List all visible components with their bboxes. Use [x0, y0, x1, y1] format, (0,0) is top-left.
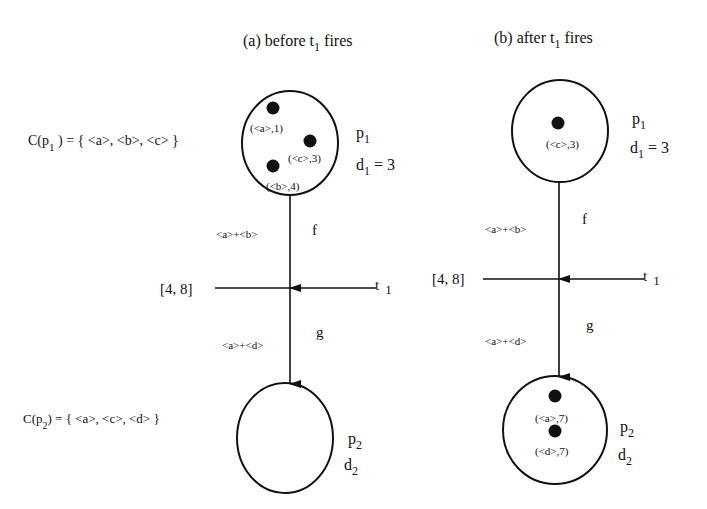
p2-name: p2: [348, 430, 362, 452]
d1-label: d1 = 3: [630, 139, 669, 161]
token-dot: [549, 425, 562, 438]
set-p2-label: C(p2) = { <a>, <c>, <d> }: [23, 411, 160, 431]
d2-label: d2: [618, 446, 632, 468]
arc-f-name: f: [312, 222, 317, 238]
d2-label: d2: [344, 456, 358, 478]
transition-name: t1: [375, 277, 392, 297]
d1-label: d1 = 3: [356, 156, 395, 178]
token-label: (<a>,7): [535, 412, 568, 425]
token-label: (<b>,4): [266, 180, 300, 193]
panel-before: (a) before t1 fires C(p1 ) = { <a>, <b>,…: [23, 32, 395, 493]
place-p2: [237, 383, 333, 493]
firing-interval: [4, 8]: [160, 281, 193, 297]
token-dot: [267, 160, 280, 173]
arc-f-name: f: [582, 211, 587, 227]
token-label: (<a>,1): [250, 122, 283, 135]
panel-a-title: (a) before t1 fires: [243, 32, 353, 54]
p1-name: p1: [356, 124, 370, 146]
token-label: (<c>,3): [546, 138, 579, 151]
arc-g-expression: <a>+<d>: [485, 335, 526, 347]
token-label: (<d>,7): [535, 445, 569, 458]
set-p1-label: C(p1 ) = { <a>, <b>, <c> }: [28, 133, 179, 153]
token-dot: [549, 390, 562, 403]
arc-f-expression: <a>+<b>: [216, 228, 257, 240]
arc-g-expression: <a>+<d>: [222, 339, 263, 351]
token-dot: [304, 135, 317, 148]
place-p1: [512, 80, 608, 182]
p1-name: p1: [632, 110, 646, 132]
transition-name: t1: [643, 268, 660, 288]
token-dot: [267, 102, 280, 115]
arc-g-name: g: [316, 324, 324, 340]
panel-b-title: (b) after t1 fires: [494, 29, 593, 51]
arc-g-name: g: [586, 317, 594, 333]
panel-after: (b) after t1 fires (<c>,3) p1 d1 = 3 <a>…: [432, 29, 669, 484]
petri-net-diagram: (a) before t1 fires C(p1 ) = { <a>, <b>,…: [0, 0, 707, 509]
firing-interval: [4, 8]: [432, 271, 465, 287]
token-label: (<c>,3): [288, 152, 321, 165]
arc-f-expression: <a>+<b>: [485, 223, 526, 235]
p2-name: p2: [620, 418, 634, 440]
token-dot: [552, 117, 565, 130]
